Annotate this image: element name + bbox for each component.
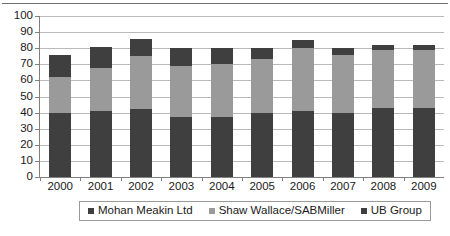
bar-segment <box>90 68 112 111</box>
y-axis-tick-label: 50 <box>3 91 33 103</box>
bar-segment <box>49 77 71 112</box>
y-axis-tick-label: 0 <box>3 171 33 183</box>
y-axis-tick-label: 60 <box>3 75 33 87</box>
bar-segment <box>251 59 273 112</box>
bar-segment <box>130 109 152 177</box>
page-divider-rule <box>2 3 448 4</box>
legend-label: UB Group <box>371 205 422 217</box>
x-axis-tick-label: 2009 <box>404 181 444 193</box>
y-axis-tick-label: 30 <box>3 123 33 135</box>
bar-segment <box>211 64 233 117</box>
legend-item[interactable]: Mohan Meakin Ltd <box>88 205 193 217</box>
bar-segment <box>49 113 71 177</box>
bar-segment <box>211 48 233 64</box>
bar-stack <box>49 16 71 177</box>
bar-segment <box>170 66 192 118</box>
x-axis-tick-label: 2002 <box>121 181 161 193</box>
bar-segment <box>170 48 192 66</box>
x-axis-tick-label: 2004 <box>202 181 242 193</box>
bar-segment <box>251 48 273 59</box>
chart-legend: Mohan Meakin LtdShaw Wallace/SABMillerUB… <box>79 201 431 221</box>
bar-stack <box>130 16 152 177</box>
x-axis-line <box>35 177 444 178</box>
bar-segment <box>251 113 273 177</box>
bar-segment <box>292 40 314 48</box>
bar-segment <box>413 50 435 108</box>
bar-segment <box>332 48 354 54</box>
bar-stack <box>332 16 354 177</box>
legend-swatch-icon <box>88 208 94 214</box>
legend-label: Shaw Wallace/SABMiller <box>219 205 345 217</box>
bar-segment <box>372 45 394 50</box>
bar-segment <box>413 45 435 50</box>
y-axis-tick-label: 80 <box>3 42 33 54</box>
bar-segment <box>372 108 394 177</box>
legend-item[interactable]: Shaw Wallace/SABMiller <box>209 205 345 217</box>
bar-segment <box>130 56 152 109</box>
legend-item[interactable]: UB Group <box>361 205 422 217</box>
y-axis-tick-label: 90 <box>3 26 33 38</box>
y-axis-tick-labels: 0102030405060708090100 <box>0 0 33 236</box>
x-axis-tick-label: 2006 <box>283 181 323 193</box>
plot-area <box>40 16 444 177</box>
bar-stack <box>413 16 435 177</box>
x-axis-tick-label: 2001 <box>81 181 121 193</box>
bar-segment <box>90 47 112 68</box>
bar-segment <box>130 39 152 57</box>
stacked-bar-chart: 0102030405060708090100 20002001200220032… <box>0 0 450 236</box>
bar-stack <box>292 16 314 177</box>
bar-segment <box>170 117 192 177</box>
bar-stack <box>90 16 112 177</box>
bar-segment <box>211 117 233 177</box>
y-axis-tick-label: 10 <box>3 155 33 167</box>
x-axis-tick-label: 2007 <box>323 181 363 193</box>
bar-segment <box>332 113 354 177</box>
y-axis-tick-label: 100 <box>3 10 33 22</box>
x-axis-tick-label: 2000 <box>40 181 80 193</box>
x-axis-tick-label: 2008 <box>363 181 403 193</box>
bar-stack <box>211 16 233 177</box>
bar-segment <box>332 55 354 113</box>
x-axis-tick-label: 2005 <box>242 181 282 193</box>
bar-stack <box>372 16 394 177</box>
bar-segment <box>292 48 314 111</box>
bar-segment <box>49 55 71 78</box>
bar-segment <box>372 50 394 108</box>
x-axis-tick-label: 2003 <box>161 181 201 193</box>
legend-swatch-icon <box>209 208 215 214</box>
y-axis-tick-label: 20 <box>3 139 33 151</box>
bar-segment <box>292 111 314 177</box>
bar-stack <box>170 16 192 177</box>
legend-swatch-icon <box>361 208 367 214</box>
y-axis-tick-label: 70 <box>3 59 33 71</box>
bar-segment <box>90 111 112 177</box>
bar-stack <box>251 16 273 177</box>
y-axis-tick-label: 40 <box>3 107 33 119</box>
bar-segment <box>413 108 435 177</box>
legend-label: Mohan Meakin Ltd <box>98 205 193 217</box>
